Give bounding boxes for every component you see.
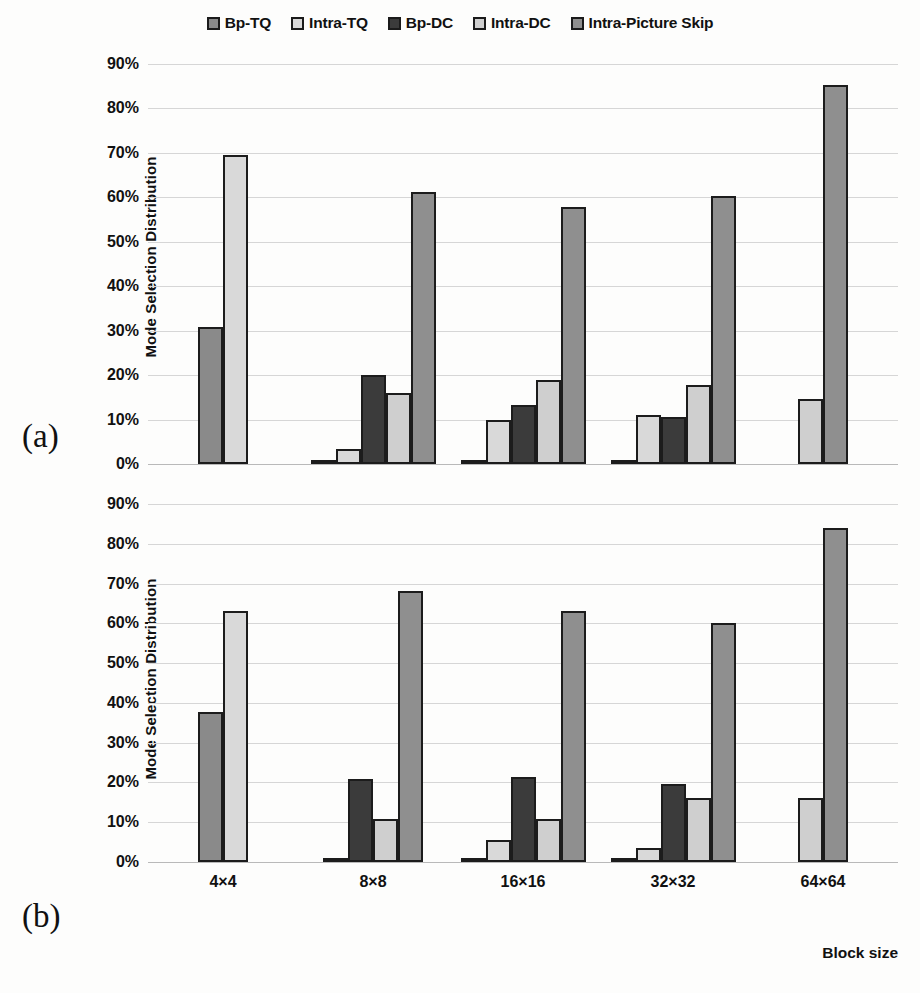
- bar-group-32x32: 32×32: [598, 504, 748, 862]
- y-axis-tick-label: 50%: [107, 654, 139, 672]
- bar-bp-dc[interactable]: [511, 405, 536, 464]
- square-swatch-icon: [388, 17, 401, 30]
- legend-item-label: Intra-DC: [491, 14, 551, 32]
- y-axis-tick-label: 60%: [107, 614, 139, 632]
- bar-bp-tq[interactable]: [311, 460, 336, 464]
- bar-intra-tq[interactable]: [486, 420, 511, 464]
- bar-bp-tq[interactable]: [611, 858, 636, 862]
- y-axis-tick-label: 50%: [107, 233, 139, 251]
- bar-intra-dc[interactable]: [536, 819, 561, 862]
- bar-intra-dc[interactable]: [798, 399, 823, 464]
- bar-group-inner: [461, 504, 586, 862]
- bar-intra-tq[interactable]: [223, 611, 248, 862]
- legend-item-label: Bp-DC: [406, 14, 453, 32]
- bar-group-16x16: [448, 64, 598, 464]
- bar-intra-picture-skip[interactable]: [711, 623, 736, 862]
- bar-intra-picture-skip[interactable]: [561, 207, 586, 464]
- square-swatch-icon: [207, 17, 220, 30]
- bar-bp-dc[interactable]: [661, 417, 686, 464]
- bar-group-inner: [798, 64, 848, 464]
- legend-item-label: Intra-TQ: [309, 14, 368, 32]
- bar-group-inner: [311, 64, 436, 464]
- y-axis-tick-label: 60%: [107, 188, 139, 206]
- y-axis-tick-label: 10%: [107, 813, 139, 831]
- y-axis-tick-label: 30%: [107, 322, 139, 340]
- y-axis-tick-label: 20%: [107, 366, 139, 384]
- y-axis-tick-label: 90%: [107, 495, 139, 513]
- y-axis-tick-label: 40%: [107, 694, 139, 712]
- y-axis-tick-label: 90%: [107, 55, 139, 73]
- bar-intra-dc[interactable]: [386, 393, 411, 464]
- legend-item-bp-tq[interactable]: Bp-TQ: [207, 14, 271, 32]
- legend-item-intra-picture-skip[interactable]: Intra-Picture Skip: [571, 14, 714, 32]
- panel-marker-a: (a): [22, 418, 59, 455]
- y-axis-tick-label: 40%: [107, 277, 139, 295]
- legend-item-intra-dc[interactable]: Intra-DC: [473, 14, 551, 32]
- legend-item-label: Bp-TQ: [225, 14, 271, 32]
- axis-baseline: [148, 862, 898, 863]
- legend-item-intra-tq[interactable]: Intra-TQ: [291, 14, 368, 32]
- bar-intra-picture-skip[interactable]: [711, 196, 736, 464]
- bar-bp-tq[interactable]: [461, 858, 486, 862]
- axis-baseline: [148, 464, 898, 465]
- plot-area-b: 0%10%20%30%40%50%60%70%80%90%4×48×816×16…: [148, 504, 898, 862]
- x-axis-title: Block size: [822, 944, 898, 962]
- bar-group-8x8: [298, 64, 448, 464]
- bar-intra-dc[interactable]: [686, 385, 711, 464]
- bar-groups: [148, 64, 898, 464]
- bar-bp-dc[interactable]: [661, 784, 686, 862]
- y-axis-tick-label: 20%: [107, 773, 139, 791]
- bar-intra-tq[interactable]: [636, 848, 661, 862]
- square-swatch-icon: [291, 17, 304, 30]
- y-axis-tick-label: 70%: [107, 575, 139, 593]
- bar-intra-dc[interactable]: [798, 798, 823, 862]
- bar-bp-tq[interactable]: [611, 460, 636, 464]
- bar-intra-tq[interactable]: [336, 449, 361, 464]
- bar-intra-picture-skip[interactable]: [823, 528, 848, 862]
- x-axis-tick-label: 32×32: [598, 873, 748, 891]
- bar-groups: 4×48×816×1632×3264×64: [148, 504, 898, 862]
- bar-group-inner: [323, 504, 423, 862]
- bar-intra-dc[interactable]: [373, 819, 398, 862]
- bar-intra-dc[interactable]: [536, 380, 561, 464]
- bar-intra-tq[interactable]: [223, 155, 248, 464]
- bar-group-inner: [198, 64, 248, 464]
- square-swatch-icon: [571, 17, 584, 30]
- bar-bp-tq[interactable]: [198, 327, 223, 464]
- bar-group-64x64: [748, 64, 898, 464]
- x-axis-tick-label: 8×8: [298, 873, 448, 891]
- y-axis-tick-label: 0%: [116, 853, 139, 871]
- y-axis-tick-label: 10%: [107, 411, 139, 429]
- y-axis-tick-label: 70%: [107, 144, 139, 162]
- bar-bp-dc[interactable]: [348, 779, 373, 862]
- square-swatch-icon: [473, 17, 486, 30]
- bar-group-inner: [461, 64, 586, 464]
- bar-intra-picture-skip[interactable]: [398, 591, 423, 862]
- bar-bp-tq[interactable]: [323, 858, 348, 862]
- bar-group-4x4: [148, 64, 298, 464]
- bar-bp-dc[interactable]: [511, 777, 536, 862]
- bar-group-inner: [198, 504, 248, 862]
- legend-item-bp-dc[interactable]: Bp-DC: [388, 14, 453, 32]
- x-axis-tick-label: 16×16: [448, 873, 598, 891]
- bar-intra-tq[interactable]: [486, 840, 511, 862]
- y-axis-title-wrap-a: Mode Selection Distribution: [62, 46, 63, 467]
- bar-bp-tq[interactable]: [461, 460, 486, 464]
- bar-intra-dc[interactable]: [686, 798, 711, 862]
- bar-intra-picture-skip[interactable]: [561, 611, 586, 862]
- bar-group-inner: [798, 504, 848, 862]
- bar-intra-picture-skip[interactable]: [411, 192, 436, 464]
- y-axis-tick-label: 0%: [116, 455, 139, 473]
- x-axis-tick-label: 64×64: [748, 873, 898, 891]
- y-axis-tick-label: 80%: [107, 535, 139, 553]
- y-axis-tick-label: 30%: [107, 734, 139, 752]
- bar-intra-tq[interactable]: [636, 415, 661, 464]
- bar-group-8x8: 8×8: [298, 504, 448, 862]
- bar-group-64x64: 64×64: [748, 504, 898, 862]
- chart-legend: Bp-TQIntra-TQBp-DCIntra-DCIntra-Picture …: [0, 0, 920, 46]
- chart-panel-a: Mode Selection Distribution 0%10%20%30%4…: [0, 46, 920, 501]
- bar-group-inner: [611, 64, 736, 464]
- bar-bp-tq[interactable]: [198, 712, 223, 862]
- bar-intra-picture-skip[interactable]: [823, 85, 848, 464]
- bar-bp-dc[interactable]: [361, 375, 386, 464]
